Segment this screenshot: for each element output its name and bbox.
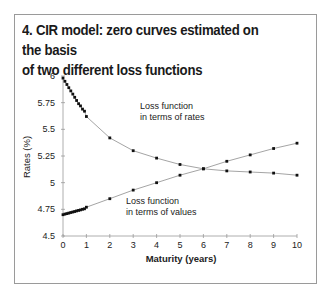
annotation-values-line1: Loss function [126,196,179,206]
x-axis-title: Maturity (years) [146,253,217,264]
data-point [69,90,72,93]
data-point [64,80,67,83]
y-tick-label: 5.25 [37,151,55,161]
data-point [296,174,299,177]
y-tick-label: 5 [50,178,55,188]
data-point [108,137,111,140]
data-point [132,189,135,192]
data-point [85,206,88,209]
data-point [75,99,78,102]
series-points [62,77,299,216]
x-tick-label: 3 [131,240,136,250]
data-point [83,110,86,113]
y-tick-label: 4.75 [37,204,55,214]
axes: 0123456789104.54.7555.255.55.756 [37,71,302,250]
x-tick-label: 6 [201,240,206,250]
data-point [225,170,228,173]
x-tick-label: 5 [177,240,182,250]
data-point [249,171,252,174]
data-point [179,163,182,166]
annotation-values-line2: in terms of values [126,207,197,217]
data-point [179,174,182,177]
x-tick-label: 10 [292,240,302,250]
data-point [71,93,74,96]
x-tick-label: 0 [60,240,65,250]
data-point [67,86,70,89]
x-tick-label: 1 [84,240,89,250]
chart: 0123456789104.54.7555.255.55.756 Loss fu… [0,0,330,294]
data-point [272,147,275,150]
y-axis-title: Rates (%) [21,136,32,178]
data-point [249,154,252,157]
data-point [296,142,299,145]
data-point [155,181,158,184]
x-tick-label: 7 [224,240,229,250]
data-point [66,83,69,86]
x-tick-label: 4 [154,240,159,250]
data-point [202,167,205,170]
data-point [62,77,65,80]
annotation-rates-line1: Loss function [140,101,193,111]
x-tick-label: 8 [248,240,253,250]
x-tick-label: 9 [271,240,276,250]
y-tick-label: 4.5 [42,231,55,241]
y-tick-label: 6 [50,71,55,81]
x-tick-label: 2 [107,240,112,250]
data-point [132,149,135,152]
y-tick-label: 5.5 [42,124,55,134]
data-point [79,105,82,108]
data-point [108,197,111,200]
data-point [73,96,76,99]
data-point [85,115,88,118]
data-point [272,172,275,175]
y-tick-label: 5.75 [37,98,55,108]
data-point [155,157,158,160]
series-line-1 [63,143,297,215]
data-point [225,160,228,163]
annotation-rates-line2: in terms of rates [140,112,205,122]
series-line-0 [63,78,297,175]
series-lines [63,78,297,215]
